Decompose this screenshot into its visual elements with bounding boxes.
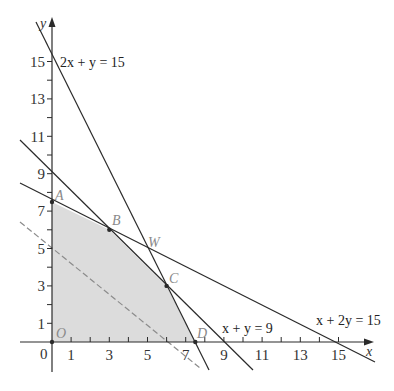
- x-tick-labels: 1 3 5 7 9 11 13 15: [67, 347, 346, 363]
- y-axis-arrow-icon: [49, 17, 56, 27]
- point-label-o: O: [56, 326, 66, 341]
- svg-text:11: 11: [255, 347, 269, 363]
- svg-text:13: 13: [293, 347, 308, 363]
- svg-text:5: 5: [144, 347, 152, 363]
- svg-text:5: 5: [38, 241, 46, 257]
- svg-text:11: 11: [31, 129, 45, 145]
- point-label-b: B: [112, 213, 121, 228]
- x-axis-label: x: [365, 344, 373, 359]
- point-label-c: C: [169, 271, 179, 286]
- svg-text:9: 9: [220, 347, 228, 363]
- svg-text:9: 9: [38, 166, 46, 182]
- svg-text:3: 3: [106, 347, 114, 363]
- point-label-w: W: [148, 235, 161, 250]
- lp-graph: 1 3 5 7 9 11 13 15 1 3 5 7 9 11 13 15 0 …: [0, 0, 394, 391]
- label-x-plus-y-9: x + y = 9: [222, 321, 273, 336]
- y-ticks: [47, 62, 52, 324]
- point-label-a: A: [54, 188, 64, 203]
- svg-text:7: 7: [182, 347, 190, 363]
- svg-text:13: 13: [30, 91, 45, 107]
- svg-text:3: 3: [38, 278, 46, 294]
- label-x-plus-2y-15: x + 2y = 15: [316, 313, 381, 328]
- point-label-d: D: [196, 326, 207, 341]
- label-2x-plus-y-15: 2x + y = 15: [60, 55, 125, 70]
- origin-zero-label: 0: [40, 346, 48, 362]
- svg-text:7: 7: [38, 203, 46, 219]
- svg-text:15: 15: [30, 54, 45, 70]
- svg-text:1: 1: [38, 316, 46, 332]
- svg-text:15: 15: [331, 347, 346, 363]
- y-axis-label: y: [38, 16, 47, 31]
- svg-text:1: 1: [67, 347, 75, 363]
